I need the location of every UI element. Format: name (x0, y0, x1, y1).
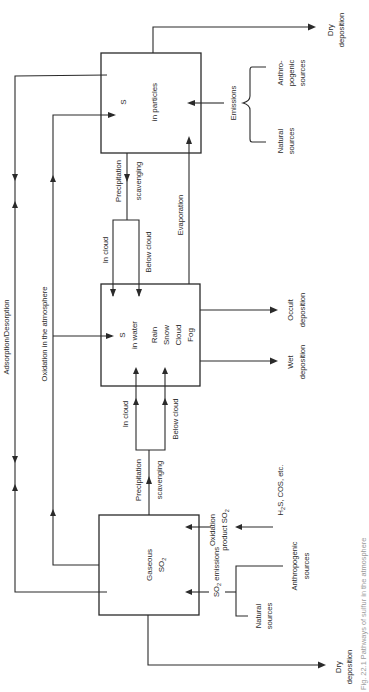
precursors-label: H2S, COS, etc. (276, 465, 286, 516)
svg-text:Below cloud: Below cloud (144, 232, 153, 273)
arrow-up-icon (12, 201, 18, 208)
svg-text:Anthro-: Anthro- (276, 60, 285, 85)
svg-text:In cloud: In cloud (121, 401, 130, 428)
svg-text:S: S (118, 332, 127, 337)
svg-text:Occult: Occult (286, 298, 295, 320)
svg-text:In cloud: In cloud (101, 237, 110, 264)
arrow-up-icon (50, 175, 56, 182)
arrow-right-icon (270, 307, 278, 314)
svg-text:in water: in water (130, 321, 139, 349)
svg-text:S: S (119, 99, 128, 104)
svg-text:deposition: deposition (345, 650, 354, 685)
svg-text:deposition: deposition (337, 13, 346, 48)
svg-text:Fog: Fog (186, 328, 195, 342)
svg-text:sources: sources (298, 60, 307, 87)
svg-text:sources: sources (287, 128, 296, 155)
svg-text:product SO2: product SO2 (220, 509, 230, 550)
oxidation-product-source: Oxidation product SO2 H2S, COS, etc. (185, 465, 286, 551)
upper-scavenging-edge: Precipitation scavenging In cloud Below … (101, 153, 153, 297)
arrow-up-icon (12, 484, 18, 491)
svg-text:Anthropogenic: Anthropogenic (290, 541, 299, 590)
arrow-down-icon (12, 174, 18, 181)
arrow-up-icon (162, 398, 168, 405)
svg-text:Below cloud: Below cloud (171, 399, 180, 440)
evaporation-edge: Evaporation (176, 136, 192, 284)
occult-deposition: Occult deposition (200, 293, 307, 328)
arrow-right-icon (308, 24, 316, 31)
arrow-up-icon (50, 509, 56, 516)
svg-text:Dry: Dry (334, 661, 343, 673)
svg-text:pogenic: pogenic (287, 60, 296, 87)
svg-text:sources: sources (302, 553, 311, 580)
svg-text:Precipitation: Precipitation (114, 160, 123, 202)
svg-text:Gaseous: Gaseous (145, 549, 154, 581)
arrow-up-icon (133, 398, 139, 405)
svg-text:deposition: deposition (298, 345, 307, 380)
particles-dry-deposition: Dry deposition (153, 13, 346, 53)
so2-emissions-source: SO2 emissions Natural sources Anthropoge… (185, 541, 311, 629)
svg-text:Rain: Rain (150, 327, 159, 343)
lower-scavenging-edge: Precipitation scavenging In cloud Below … (121, 367, 180, 515)
figure-caption: Fig. 22.1 Pathways of sulfur in the atmo… (359, 538, 368, 690)
wet-deposition: Wet deposition (200, 345, 307, 380)
svg-text:sources: sources (265, 603, 274, 630)
arrow-right-icon (270, 358, 278, 365)
svg-text:Precipitation: Precipitation (134, 459, 143, 501)
svg-text:in particles: in particles (150, 83, 159, 121)
svg-text:scavenging: scavenging (155, 461, 164, 499)
svg-text:Natural: Natural (276, 128, 285, 153)
svg-text:Cloud: Cloud (174, 325, 183, 346)
gaseous-dry-deposition: Dry deposition (148, 615, 354, 684)
svg-text:Snow: Snow (162, 325, 171, 345)
svg-text:scavenging: scavenging (134, 162, 143, 200)
evaporation-label: Evaporation (176, 195, 185, 236)
svg-text:Natural: Natural (254, 603, 263, 628)
arrow-up-icon (146, 476, 152, 484)
sulfur-pathways-diagram: S in particles S in water Rain Snow Clou… (0, 0, 369, 692)
adsorption-desorption-label: Adsorption/Desorption (2, 299, 11, 374)
oxidation-atmosphere-label: Oxidation in the atmosphere (40, 287, 49, 382)
so2-emissions-label: SO2 emissions (212, 547, 222, 597)
emissions-label: Emissions (229, 85, 238, 120)
svg-text:Oxidation: Oxidation (208, 514, 217, 546)
particle-emissions: Emissions Anthro- pogenic sources Natura… (187, 60, 307, 155)
arrow-right-icon (318, 662, 326, 669)
svg-text:deposition: deposition (298, 293, 307, 328)
arrow-down-icon (12, 456, 18, 463)
svg-text:Dry: Dry (326, 24, 335, 36)
brace-icon (243, 67, 266, 142)
svg-text:Wet: Wet (286, 354, 295, 368)
arrow-left-icon (235, 524, 242, 530)
arrow-down-icon (124, 174, 130, 182)
